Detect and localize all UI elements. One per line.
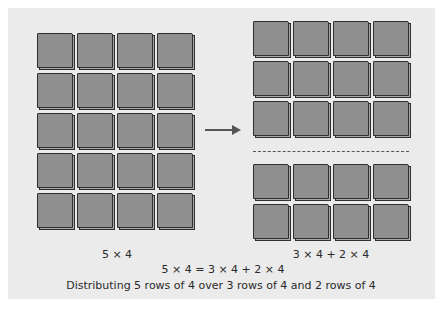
equation: 5 × 4 = 3 × 4 + 2 × 4 <box>161 263 284 276</box>
unit-tile <box>37 193 73 230</box>
unit-tile <box>157 113 193 150</box>
unit-tile <box>37 113 73 150</box>
unit-tile <box>253 61 289 98</box>
unit-tile <box>333 204 369 241</box>
unit-tile <box>77 33 113 70</box>
unit-tile <box>117 113 153 150</box>
unit-tile <box>157 33 193 70</box>
caption: Distributing 5 rows of 4 over 3 rows of … <box>66 279 376 292</box>
unit-tile <box>373 61 409 98</box>
unit-tile <box>373 21 409 58</box>
unit-tile <box>77 73 113 110</box>
unit-tile <box>333 21 369 58</box>
unit-tile <box>333 101 369 138</box>
unit-tile <box>293 21 329 58</box>
unit-tile <box>157 193 193 230</box>
right-grid-label: 3 × 4 + 2 × 4 <box>293 248 370 261</box>
dashed-divider <box>253 151 409 152</box>
unit-tile <box>293 164 329 201</box>
unit-tile <box>117 193 153 230</box>
unit-tile <box>37 33 73 70</box>
unit-tile <box>333 61 369 98</box>
unit-tile <box>37 73 73 110</box>
unit-tile <box>253 204 289 241</box>
unit-tile <box>373 164 409 201</box>
unit-tile <box>253 21 289 58</box>
unit-tile <box>253 101 289 138</box>
unit-tile <box>253 164 289 201</box>
unit-tile <box>117 33 153 70</box>
unit-tile <box>373 204 409 241</box>
unit-tile <box>293 204 329 241</box>
unit-tile <box>157 73 193 110</box>
unit-tile <box>37 153 73 190</box>
unit-tile <box>293 101 329 138</box>
unit-tile <box>373 101 409 138</box>
unit-tile <box>117 73 153 110</box>
unit-tile <box>293 61 329 98</box>
unit-tile <box>117 153 153 190</box>
left-grid-label: 5 × 4 <box>102 248 132 261</box>
unit-tile <box>157 153 193 190</box>
unit-tile <box>77 193 113 230</box>
unit-tile <box>77 153 113 190</box>
unit-tile <box>77 113 113 150</box>
unit-tile <box>333 164 369 201</box>
